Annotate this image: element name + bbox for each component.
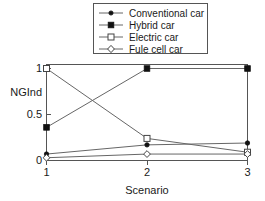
- legend-label-hybrid-car: Hybrid car: [129, 20, 175, 31]
- chart-legend: Conventional car Hybrid car Electric car…: [94, 4, 208, 55]
- filled-circle-icon: [109, 11, 113, 15]
- data-point-filled-square: [144, 66, 150, 72]
- series-line: [47, 69, 248, 128]
- y-axis-title: NGInd: [10, 86, 42, 98]
- x-tick-label-3: 3: [244, 166, 250, 178]
- series-electric-car: [44, 66, 251, 156]
- data-point-filled-square: [245, 66, 251, 72]
- x-tick-label-2: 2: [144, 166, 150, 178]
- chart-figure: 1 0.5 0 NGInd 1 2 3 Scenario Conventiona…: [0, 0, 265, 201]
- x-axis-ticks: [47, 161, 248, 165]
- legend-label-electric-car: Electric car: [129, 32, 179, 43]
- y-tick-label-0-5: 0.5: [27, 108, 42, 120]
- series-hybrid-car: [44, 66, 251, 130]
- series-layer: [43, 66, 251, 162]
- data-point-filled-square: [44, 125, 50, 131]
- data-point-open-diamond: [144, 151, 151, 158]
- series-fule-cell-car: [43, 151, 251, 161]
- data-point-open-square: [44, 66, 50, 72]
- data-point-filled-circle: [145, 143, 149, 147]
- y-tick-label-1: 1: [36, 62, 42, 74]
- filled-square-icon: [108, 22, 114, 28]
- line-chart: 1 0.5 0 NGInd 1 2 3 Scenario Conventiona…: [0, 0, 265, 201]
- legend-label-fuel-cell-car: Fule cell car: [129, 44, 184, 55]
- y-tick-label-0: 0: [36, 154, 42, 166]
- x-tick-label-1: 1: [43, 166, 49, 178]
- data-point-open-square: [144, 135, 150, 141]
- y-axis-ticks: [47, 69, 51, 161]
- open-square-icon: [108, 34, 114, 40]
- data-point-filled-circle: [245, 141, 249, 145]
- x-axis-title: Scenario: [125, 184, 168, 196]
- legend-label-conventional-car: Conventional car: [129, 8, 205, 19]
